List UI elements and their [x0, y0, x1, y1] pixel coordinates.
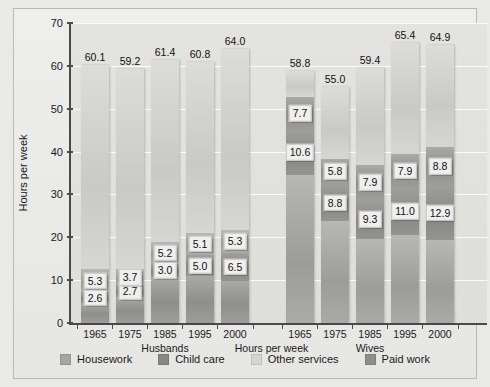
- bar-total-label: 65.4: [395, 29, 415, 40]
- x-tick-label: 1965: [83, 329, 106, 340]
- y-tick-label: 70: [51, 18, 63, 29]
- segment-value-label: 8.8: [324, 194, 347, 211]
- segment-value-label: 5.3: [84, 273, 107, 290]
- x-axis-line: [69, 323, 487, 325]
- y-tick-mark: [67, 108, 73, 110]
- segment-paid-work[interactable]: [186, 276, 214, 323]
- segment-value-label: 6.5: [224, 258, 247, 275]
- gridline: [71, 23, 487, 24]
- segment-value-label: 5.3: [224, 233, 247, 250]
- bar-total-label: 55.0: [325, 74, 345, 85]
- segment-value-label: 9.3: [359, 211, 382, 228]
- legend-label: Paid work: [382, 354, 430, 365]
- y-tick-label: 0: [57, 318, 63, 329]
- segment-housework[interactable]: [286, 175, 314, 323]
- segment-paid-work[interactable]: [81, 303, 109, 323]
- segment-other-services[interactable]: [426, 45, 454, 147]
- segment-housework[interactable]: [356, 239, 384, 323]
- x-tick-label: 1985: [153, 329, 176, 340]
- group-label-husbands: Husbands: [141, 343, 188, 354]
- y-tick-label: 60: [51, 60, 63, 71]
- segment-other-services[interactable]: [321, 87, 349, 159]
- bar-total-label: 64.0: [225, 35, 245, 46]
- x-tick-mark: [217, 323, 218, 329]
- segment-other-services[interactable]: [391, 43, 419, 154]
- segment-paid-work[interactable]: [151, 277, 179, 323]
- y-tick-label: 10: [51, 275, 63, 286]
- x-tick-mark: [282, 323, 283, 329]
- legend-label: Child care: [175, 354, 225, 365]
- legend-label: Other services: [268, 354, 339, 365]
- x-tick-label: 1975: [118, 329, 141, 340]
- x-axis-title: Hours per week: [235, 343, 309, 354]
- y-tick-mark: [67, 236, 73, 238]
- bar-husbands-2000[interactable]: [221, 49, 249, 323]
- segment-paid-work[interactable]: [116, 297, 144, 323]
- segment-paid-work[interactable]: [221, 281, 249, 323]
- y-tick-mark: [67, 193, 73, 195]
- segment-value-label: 7.7: [289, 105, 312, 122]
- legend-item-other-services[interactable]: Other services: [251, 354, 339, 365]
- x-tick-label: 1995: [188, 329, 211, 340]
- x-tick-mark: [77, 323, 78, 329]
- legend-swatch-icon: [158, 354, 169, 365]
- legend-item-paid-work[interactable]: Paid work: [365, 354, 430, 365]
- bar-total-label: 59.4: [360, 55, 380, 66]
- segment-value-label: 8.8: [429, 158, 452, 175]
- segment-value-label: 5.1: [189, 236, 212, 253]
- legend-item-housework[interactable]: Housework: [60, 354, 132, 365]
- y-tick-mark: [67, 279, 73, 281]
- segment-other-services[interactable]: [116, 69, 144, 269]
- bar-wives-1985[interactable]: [356, 68, 384, 323]
- segment-housework[interactable]: [426, 240, 454, 323]
- bar-husbands-1995[interactable]: [186, 62, 214, 323]
- segment-value-label: 5.8: [324, 163, 347, 180]
- x-tick-mark: [253, 323, 254, 329]
- segment-value-label: 7.9: [359, 174, 382, 191]
- x-tick-label: 1995: [393, 329, 416, 340]
- bar-total-label: 64.9: [430, 31, 450, 42]
- segment-value-label: 5.2: [154, 244, 177, 261]
- y-tick-mark: [67, 22, 73, 24]
- segment-other-services[interactable]: [356, 68, 384, 165]
- x-tick-mark: [317, 323, 318, 329]
- x-tick-mark: [422, 323, 423, 329]
- x-tick-mark: [182, 323, 183, 329]
- bar-total-label: 60.8: [190, 49, 210, 60]
- x-tick-mark: [387, 323, 388, 329]
- chart-legend: HouseworkChild careOther servicesPaid wo…: [14, 354, 476, 365]
- segment-value-label: 11.0: [391, 203, 419, 220]
- legend-item-child-care[interactable]: Child care: [158, 354, 225, 365]
- x-tick-label: 1985: [358, 329, 381, 340]
- segment-other-services[interactable]: [81, 65, 109, 269]
- x-tick-mark: [112, 323, 113, 329]
- plot-area: 010203040506070 2.65.360.12.73.759.23.05…: [69, 23, 487, 325]
- bar-total-label: 61.4: [155, 46, 175, 57]
- segment-housework[interactable]: [321, 221, 349, 323]
- segment-value-label: 10.6: [286, 144, 314, 161]
- bar-total-label: 60.1: [85, 52, 105, 63]
- segment-other-services[interactable]: [151, 60, 179, 242]
- segment-value-label: 12.9: [426, 204, 454, 221]
- y-tick-mark: [67, 151, 73, 153]
- bar-wives-2000[interactable]: [426, 45, 454, 323]
- bar-husbands-1985[interactable]: [151, 60, 179, 323]
- x-tick-mark: [458, 323, 459, 329]
- segment-other-services[interactable]: [186, 62, 214, 233]
- segment-other-services[interactable]: [286, 71, 314, 97]
- legend-swatch-icon: [60, 354, 71, 365]
- y-tick-mark: [67, 322, 73, 324]
- x-tick-mark: [352, 323, 353, 329]
- y-tick-label: 20: [51, 232, 63, 243]
- segment-housework[interactable]: [391, 235, 419, 323]
- bar-total-label: 58.8: [290, 58, 310, 69]
- bar-wives-1995[interactable]: [391, 43, 419, 323]
- group-label-wives: Wives: [356, 343, 385, 354]
- y-tick-label: 30: [51, 189, 63, 200]
- segment-value-label: 2.6: [84, 289, 107, 306]
- segment-value-label: 5.0: [189, 257, 212, 274]
- segment-other-services[interactable]: [221, 49, 249, 230]
- x-tick-label: 1965: [288, 329, 311, 340]
- legend-label: Housework: [77, 354, 132, 365]
- y-tick-label: 40: [51, 146, 63, 157]
